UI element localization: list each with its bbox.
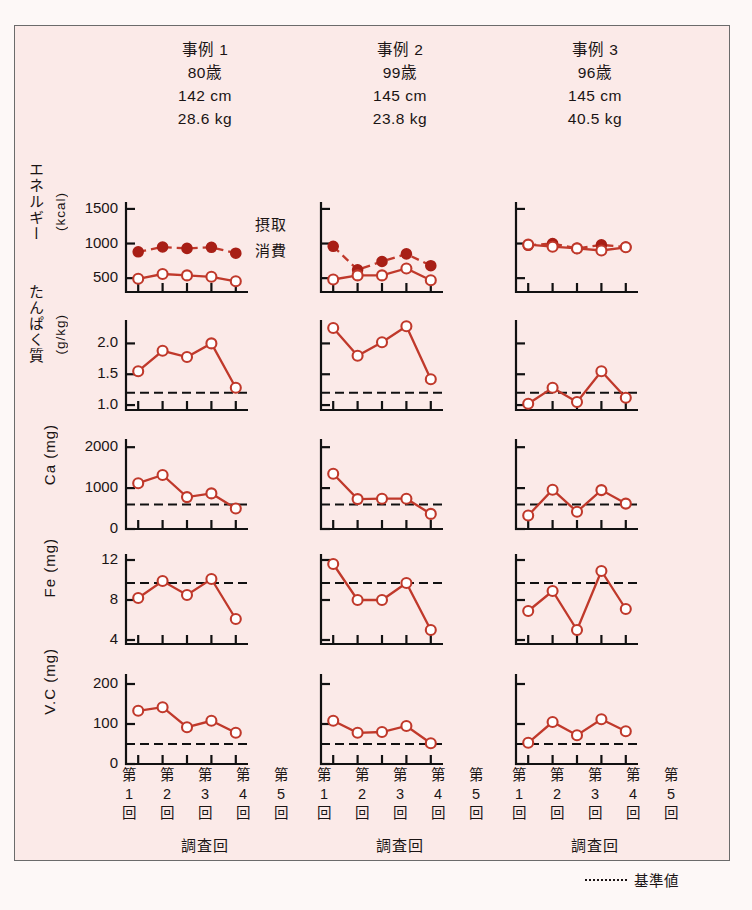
energy-legend: 摂取 消費 xyxy=(255,212,287,264)
row-label-energy: エネルギー xyxy=(25,162,46,242)
legend-expenditure: 消費 xyxy=(255,238,287,264)
plot-camg-case-1: 010002000 xyxy=(118,431,258,535)
case-name: 事例 2 xyxy=(305,38,495,61)
row-unit-protein: (g/kg) xyxy=(53,314,68,355)
x-tick-labels-case-3: 第1回第2回第3回第4回第5回 xyxy=(500,766,690,823)
y-tick-label: 8 xyxy=(110,590,118,607)
case-name: 事例 1 xyxy=(110,38,300,61)
y-tick-label: 1.0 xyxy=(97,395,118,412)
case-weight: 28.6 kg xyxy=(110,107,300,130)
x-tick-label: 第4回 xyxy=(419,766,457,823)
x-tick-label: 第5回 xyxy=(652,766,690,823)
x-axis-title-case-2: 調査回 xyxy=(305,834,495,855)
case-height: 145 cm xyxy=(500,84,690,107)
case-age: 96歳 xyxy=(500,61,690,84)
y-tick-label: 1000 xyxy=(85,478,118,495)
plot-vcmg-case-3 xyxy=(508,666,648,770)
y-tick-label: 2.0 xyxy=(97,333,118,350)
y-tick-label: 4 xyxy=(110,630,118,647)
plot-vcmg-case-1: 0100200 xyxy=(118,666,258,770)
x-tick-label: 第3回 xyxy=(381,766,419,823)
x-tick-label: 第4回 xyxy=(224,766,262,823)
reference-legend-label: 基準値 xyxy=(634,869,679,890)
x-axis-title-case-1: 調査回 xyxy=(110,834,300,855)
x-tick-label: 第2回 xyxy=(148,766,186,823)
y-tick-label: 1.5 xyxy=(97,364,118,381)
x-tick-label: 第5回 xyxy=(262,766,300,823)
plot-kcal-case-1: 50010001500 xyxy=(118,194,258,298)
case-header-3: 事例 3 96歳 145 cm 40.5 kg xyxy=(500,38,690,130)
x-tick-label: 第1回 xyxy=(500,766,538,823)
row-label-protein: たんぱく質 xyxy=(25,284,46,364)
x-tick-label: 第2回 xyxy=(538,766,576,823)
x-axis-title-case-3: 調査回 xyxy=(500,834,690,855)
plot-camg-case-2 xyxy=(313,431,453,535)
y-tick-label: 1000 xyxy=(85,234,118,251)
x-tick-label: 第5回 xyxy=(457,766,495,823)
y-tick-label: 200 xyxy=(93,674,118,691)
case-height: 145 cm xyxy=(305,84,495,107)
case-age: 80歳 xyxy=(110,61,300,84)
plot-camg-case-3 xyxy=(508,431,648,535)
plot-femg-case-2 xyxy=(313,546,453,650)
case-header-1: 事例 1 80歳 142 cm 28.6 kg xyxy=(110,38,300,130)
plot-kcal-case-3 xyxy=(508,194,648,298)
x-tick-label: 第3回 xyxy=(186,766,224,823)
row-label-ca: Ca (mg) xyxy=(41,424,58,485)
case-weight: 40.5 kg xyxy=(500,107,690,130)
case-height: 142 cm xyxy=(110,84,300,107)
x-tick-label: 第1回 xyxy=(110,766,148,823)
row-unit-energy: (kcal) xyxy=(53,192,68,231)
y-tick-label: 0 xyxy=(110,519,118,536)
reference-legend: 基準値 xyxy=(585,869,679,890)
x-tick-label: 第2回 xyxy=(343,766,381,823)
x-tick-labels-case-1: 第1回第2回第3回第4回第5回 xyxy=(110,766,300,823)
legend-intake: 摂取 xyxy=(255,212,287,238)
plot-kcal-case-2 xyxy=(313,194,453,298)
row-label-vc: V.C (mg) xyxy=(41,648,58,715)
x-tick-label: 第3回 xyxy=(576,766,614,823)
case-name: 事例 3 xyxy=(500,38,690,61)
case-header-2: 事例 2 99歳 145 cm 23.8 kg xyxy=(305,38,495,130)
y-tick-label: 1500 xyxy=(85,199,118,216)
x-tick-label: 第4回 xyxy=(614,766,652,823)
y-tick-label: 2000 xyxy=(85,437,118,454)
figure-panel: 事例 1 80歳 142 cm 28.6 kg 事例 2 99歳 145 cm … xyxy=(14,25,730,861)
dashed-line-icon xyxy=(585,879,627,881)
y-tick-label: 500 xyxy=(93,268,118,285)
row-label-fe: Fe (mg) xyxy=(41,538,58,598)
plot-femg-case-1: 4812 xyxy=(118,546,258,650)
y-tick-label: 100 xyxy=(93,714,118,731)
case-weight: 23.8 kg xyxy=(305,107,495,130)
x-tick-labels-case-2: 第1回第2回第3回第4回第5回 xyxy=(305,766,495,823)
plot-gkg-case-1: 1.01.52.0 xyxy=(118,312,258,416)
plot-vcmg-case-2 xyxy=(313,666,453,770)
y-tick-label: 12 xyxy=(101,550,118,567)
x-tick-label: 第1回 xyxy=(305,766,343,823)
case-age: 99歳 xyxy=(305,61,495,84)
plot-gkg-case-2 xyxy=(313,312,453,416)
plot-femg-case-3 xyxy=(508,546,648,650)
plot-gkg-case-3 xyxy=(508,312,648,416)
